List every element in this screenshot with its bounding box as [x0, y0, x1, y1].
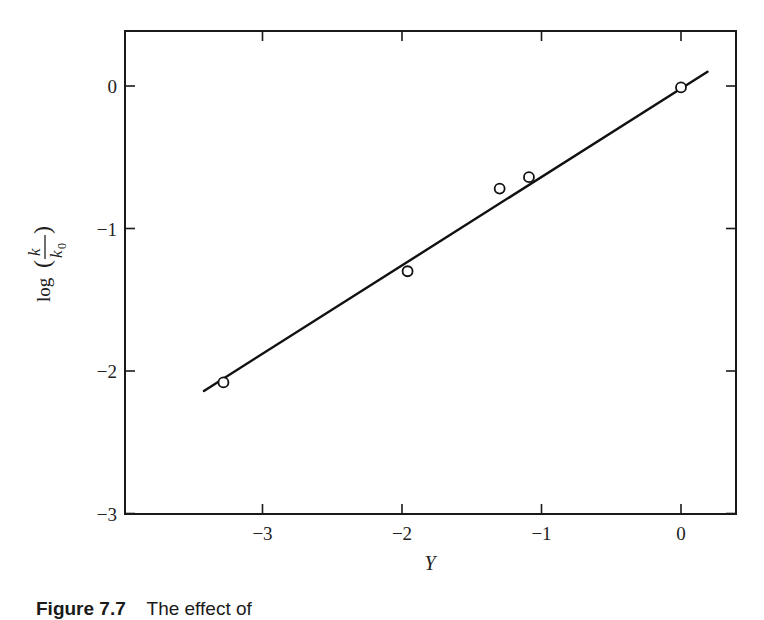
- y-tick-label: −1: [97, 219, 117, 240]
- data-point: [495, 184, 505, 194]
- x-axis-label: Y: [424, 552, 437, 574]
- data-point: [403, 266, 413, 276]
- y-axis-label-numerator: k: [25, 248, 44, 256]
- data-series: [204, 72, 708, 391]
- figure-caption: Figure 7.7 The effect of: [36, 598, 252, 620]
- figure-number: Figure 7.7: [36, 598, 126, 619]
- y-axis-label-log: log: [33, 277, 54, 302]
- y-axis-label-open-paren: (: [29, 260, 55, 268]
- x-tick-label: −2: [392, 523, 412, 544]
- plot-border: [125, 31, 736, 514]
- plot-frame: [125, 31, 736, 514]
- y-axis-label-close-paren: ): [29, 226, 55, 234]
- fit-line: [204, 72, 708, 391]
- data-point: [676, 82, 686, 92]
- x-tick-label: −1: [531, 523, 551, 544]
- caption-spacer: [131, 598, 142, 619]
- axis-ticks: [125, 31, 736, 514]
- caption-text: The effect of: [147, 598, 252, 619]
- y-tick-label: 0: [108, 76, 118, 97]
- y-axis-label-subscript: 0: [55, 243, 69, 249]
- y-tick-label: −2: [97, 361, 117, 382]
- y-axis-label: log ( k k 0 ): [25, 226, 69, 302]
- data-point: [524, 172, 534, 182]
- y-axis-label-denominator: k: [47, 250, 66, 258]
- tick-labels: −3−2−100−1−2−3: [97, 76, 686, 544]
- x-tick-label: −3: [252, 523, 272, 544]
- x-tick-label: 0: [676, 523, 686, 544]
- y-tick-label: −3: [97, 504, 117, 525]
- data-point: [218, 377, 228, 387]
